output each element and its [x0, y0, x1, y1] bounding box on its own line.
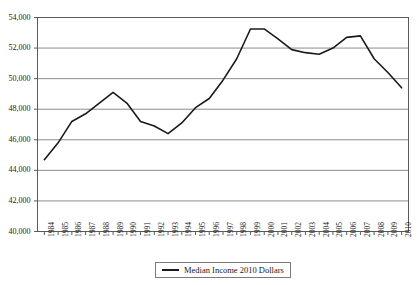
gridlines [38, 18, 409, 201]
y-tick-label: 50,000 [0, 75, 31, 83]
x-tick-label: 1989 [117, 222, 125, 237]
x-tick-label: 1990 [130, 222, 138, 237]
x-tick-label: 2001 [281, 222, 289, 237]
plot-border [38, 18, 409, 232]
x-tick-label: 2010 [405, 222, 413, 237]
x-tick-label: 2009 [391, 222, 399, 237]
y-tick-label: 48,000 [0, 105, 31, 113]
legend-line-swatch [162, 269, 179, 271]
y-tick-label: 40,000 [0, 228, 31, 236]
plot-area [0, 0, 418, 285]
legend-label: Median Income 2010 Dollars [184, 266, 284, 275]
chart-legend: Median Income 2010 Dollars [155, 262, 291, 278]
x-tick-label: 1986 [75, 222, 83, 237]
y-tick-label: 52,000 [0, 44, 31, 52]
x-tick-label: 1987 [89, 222, 97, 237]
x-tick-label: 2000 [268, 222, 276, 237]
x-tick-label: 1993 [172, 222, 180, 237]
x-tick-label: 1992 [158, 222, 166, 237]
x-tick-label: 2006 [350, 222, 358, 237]
x-tick-label: 1996 [213, 222, 221, 237]
x-tick-label: 2004 [323, 222, 331, 237]
y-tick-label: 44,000 [0, 166, 31, 174]
x-tick-label: 1991 [144, 222, 152, 237]
y-axis-ticks [34, 18, 38, 232]
x-tick-label: 1998 [240, 222, 248, 237]
x-tick-label: 2003 [309, 222, 317, 237]
x-tick-label: 2007 [364, 222, 372, 237]
x-tick-label: 2008 [378, 222, 386, 237]
y-tick-label: 46,000 [0, 136, 31, 144]
x-tick-label: 1984 [48, 222, 56, 237]
y-tick-label: 42,000 [0, 197, 31, 205]
x-tick-label: 1988 [103, 222, 111, 237]
x-tick-label: 1997 [227, 222, 235, 237]
line-chart: 54,00052,00050,00048,00046,00044,00042,0… [0, 0, 418, 285]
x-tick-label: 2002 [295, 222, 303, 237]
x-tick-label: 1995 [199, 222, 207, 237]
x-tick-label: 1985 [62, 222, 70, 237]
x-tick-label: 2005 [336, 222, 344, 237]
x-tick-label: 1994 [185, 222, 193, 237]
y-tick-label: 54,000 [0, 14, 31, 22]
x-tick-label: 1999 [254, 222, 262, 237]
